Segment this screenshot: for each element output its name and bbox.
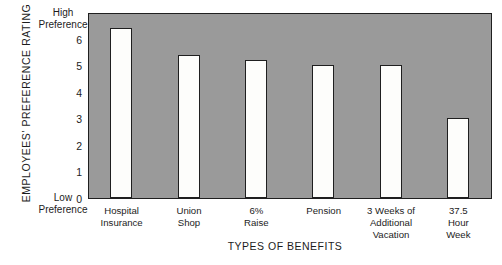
y-axis-title: EMPLOYEES' PREFERENCE RATING <box>20 3 32 203</box>
y-axis-tick-label: 2 <box>68 140 82 152</box>
x-axis-category-label-line: Hour <box>413 217 502 229</box>
x-axis-category-label-line: Week <box>413 229 502 241</box>
bar <box>178 55 200 198</box>
bar <box>447 118 469 198</box>
chart-figure: EMPLOYEES' PREFERENCE RATING High Prefer… <box>0 0 502 265</box>
bar <box>110 28 132 198</box>
x-axis-category-label: 37.5HourWeek <box>413 205 502 242</box>
x-axis-category-label-line: 37.5 <box>413 205 502 217</box>
bar <box>245 60 267 198</box>
bar <box>380 65 402 198</box>
bar <box>312 65 334 198</box>
x-axis-title: TYPES OF BENEFITS <box>205 240 365 252</box>
y-axis-tick-label: 4 <box>68 87 82 99</box>
y-axis-tick-label: 1 <box>68 166 82 178</box>
y-axis-tick-label: 0 <box>68 193 82 205</box>
y-axis-tick-label: 5 <box>68 60 82 72</box>
y-axis-tick-label: 6 <box>68 34 82 46</box>
x-axis-category-label-line: Raise <box>211 217 301 229</box>
y-axis-tick-label: 3 <box>68 113 82 125</box>
plot-area <box>88 13 492 199</box>
